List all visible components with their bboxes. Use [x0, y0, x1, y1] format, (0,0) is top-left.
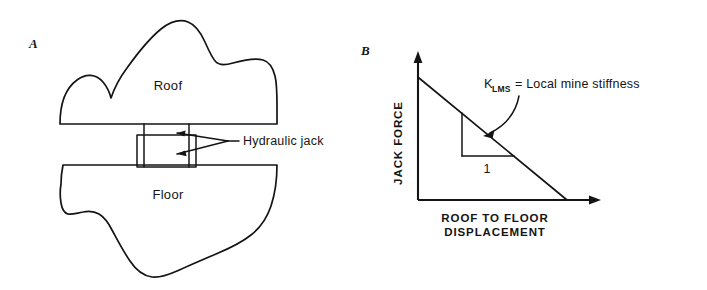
- y-axis-label: JACK FORCE: [392, 101, 404, 185]
- x-axis-label-line2: DISPLACEMENT: [444, 226, 546, 238]
- stiffness-subscript: LMS: [492, 84, 511, 94]
- floor-label: Floor: [152, 187, 183, 202]
- stiffness-description: = Local mine stiffness: [515, 77, 640, 91]
- roof-label: Roof: [154, 78, 183, 93]
- slope-run-label: 1: [484, 162, 491, 176]
- panel-a-label: A: [28, 36, 38, 51]
- y-axis-arrowhead: [414, 51, 423, 63]
- x-axis-arrowhead: [589, 196, 601, 205]
- roof-outline: [60, 21, 277, 124]
- hydraulic-jack-label: Hydraulic jack: [243, 134, 324, 148]
- figure-svg: A Roof Hydraulic jack Floor B: [0, 0, 707, 290]
- figure-container: A Roof Hydraulic jack Floor B: [0, 0, 707, 290]
- x-axis-label-line1: ROOF TO FLOOR: [441, 212, 548, 224]
- stiffness-line: [419, 78, 567, 200]
- panel-b-label: B: [360, 43, 370, 58]
- floor-outline: [60, 165, 277, 277]
- panel-a-group: A Roof Hydraulic jack Floor: [28, 21, 324, 277]
- stiffness-callout-curve: [490, 96, 519, 133]
- panel-b-group: B 1 K LMS = Local mine stiffness JACK FO…: [360, 43, 640, 238]
